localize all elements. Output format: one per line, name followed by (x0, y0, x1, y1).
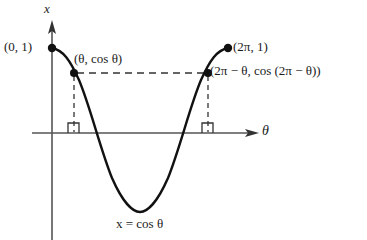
cosine-symmetry-figure (0, 0, 367, 240)
right-top-point-label: (2π, 1) (233, 40, 268, 53)
right-point-label: (2π − θ, cos (2π − θ)) (210, 64, 321, 77)
origin-point-dot (48, 44, 56, 52)
left-point-label: (θ, cos θ) (74, 52, 122, 65)
origin-point-label: (0, 1) (4, 40, 32, 53)
vertical-axis-label: x (44, 2, 50, 15)
horizontal-axis-label: θ (262, 124, 269, 138)
right-top-point-dot (224, 44, 232, 52)
curve-equation-label: x = cos θ (116, 217, 163, 230)
left-point-dot (70, 69, 78, 77)
